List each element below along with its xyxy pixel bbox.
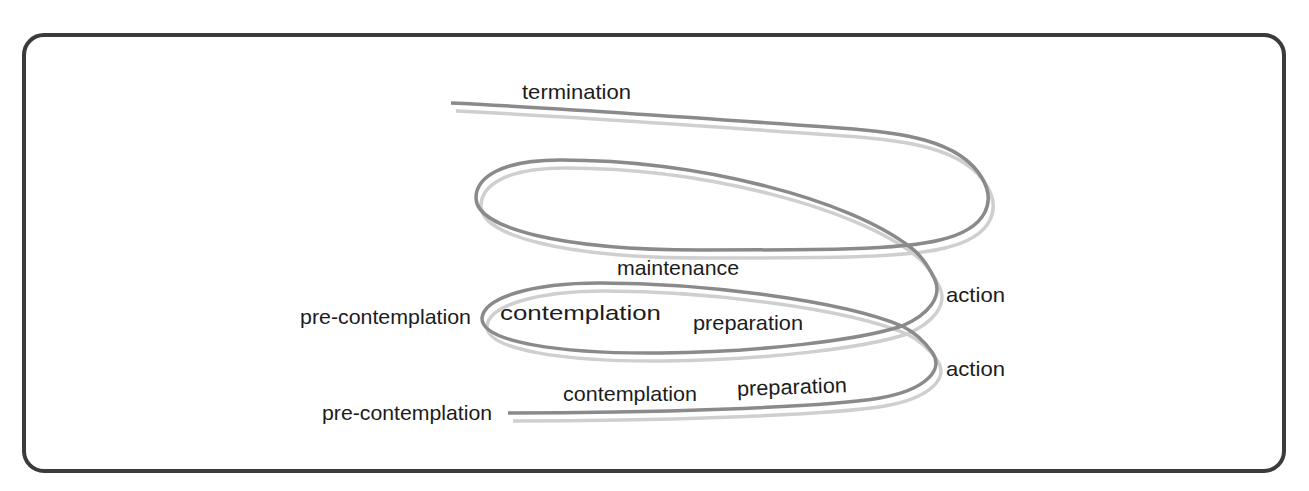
- label-maintenance: maintenance: [617, 256, 739, 279]
- label-contemplation-upper: contemplation: [500, 301, 661, 324]
- label-preparation-upper: preparation: [693, 311, 803, 334]
- label-termination: termination: [522, 80, 631, 103]
- label-action-lower: action: [946, 357, 1005, 380]
- label-preparation-lower: preparation: [737, 373, 848, 400]
- label-action-upper: action: [946, 283, 1005, 306]
- label-pre-contemplation-upper: pre-contemplation: [300, 305, 471, 328]
- label-pre-contemplation-lower: pre-contemplation: [322, 401, 492, 424]
- spiral-diagram: termination maintenance action pre-conte…: [0, 0, 1309, 491]
- label-contemplation-lower: contemplation: [563, 382, 697, 405]
